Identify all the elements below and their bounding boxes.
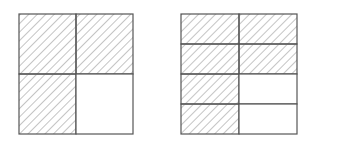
- shaded-cell: [181, 14, 239, 44]
- unshaded-cell: [239, 104, 297, 134]
- shaded-cell: [76, 14, 133, 74]
- shaded-cell: [239, 44, 297, 74]
- shaded-cell: [19, 14, 76, 74]
- shaded-cell: [19, 74, 76, 134]
- shaded-cell: [181, 44, 239, 74]
- right-square: [181, 14, 297, 134]
- shaded-cell: [181, 104, 239, 134]
- fraction-diagram: [0, 0, 342, 144]
- shaded-cell: [181, 74, 239, 104]
- left-square: [19, 14, 133, 134]
- shaded-cell: [239, 14, 297, 44]
- unshaded-cell: [76, 74, 133, 134]
- unshaded-cell: [239, 74, 297, 104]
